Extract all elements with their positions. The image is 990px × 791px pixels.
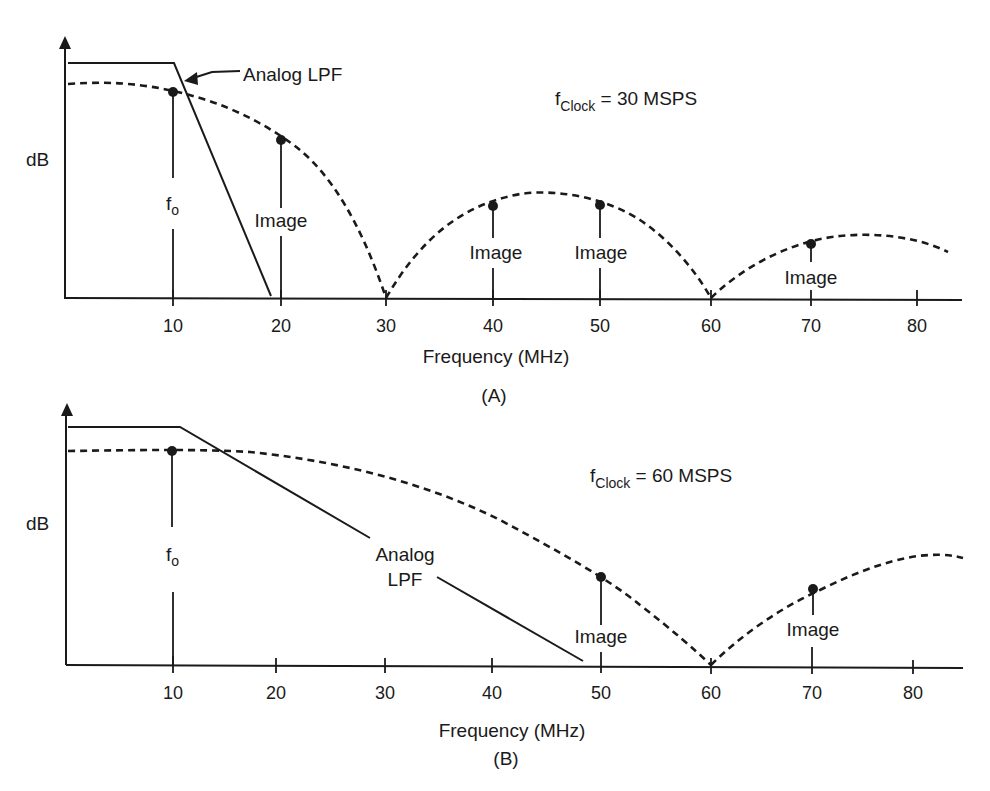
sinc-envelope-curve [68,83,948,298]
panel-caption: (A) [481,385,506,406]
marker-fo: fo [166,446,179,665]
y-axis-arrow-icon [61,403,73,416]
tick-label: 40 [482,683,502,703]
image-label: Image [575,626,628,647]
data-point [276,135,286,145]
tick-label: 60 [701,683,721,703]
marker-fo: fo [166,87,179,298]
data-point [488,201,498,211]
y-axis-title: dB [26,149,49,170]
lpf-leader-line [190,71,240,79]
tick-label: 20 [266,683,286,703]
clock-label: fClock = 60 MSPS [590,465,732,491]
marker-image-70: Image [787,584,840,640]
x-axis-title: Frequency (MHz) [439,720,586,741]
data-point [808,584,818,594]
clock-label: fClock = 30 MSPS [555,88,697,114]
tick-label: 30 [375,683,395,703]
tick-label: 50 [591,683,611,703]
image-label: Image [255,210,308,231]
x-axis [64,298,962,300]
data-point [595,200,605,210]
tick-label: 10 [163,316,183,336]
image-label: Image [787,619,840,640]
analog-lpf-curve [68,427,370,538]
y-axis-title: dB [26,513,49,534]
data-point [167,446,177,456]
tick-label: 10 [163,683,183,703]
tick-label: 40 [483,316,503,336]
figure: 10 20 30 40 50 60 70 80 Frequency (MHz) … [0,0,990,791]
tick-label: 50 [590,316,610,336]
panel-b: 10 20 30 40 50 60 70 80 Frequency (MHz) … [26,403,963,769]
panel-caption: (B) [493,748,518,769]
lpf-label-line1: Analog [375,544,434,565]
image-label: Image [575,242,628,263]
image-label: Image [785,267,838,288]
tick-label: 80 [903,683,923,703]
tick-label: 70 [801,316,821,336]
marker-image-50: Image [575,572,628,647]
data-point [596,572,606,582]
analog-lpf-curve-tail [437,577,583,661]
tick-label: 80 [907,316,927,336]
lpf-label: Analog LPF [243,64,342,85]
x-ticks [173,647,913,674]
fo-label: fo [166,193,179,218]
x-axis-title: Frequency (MHz) [423,346,570,367]
tick-label: 20 [271,316,291,336]
fo-label: fo [166,544,179,569]
x-axis [66,665,963,668]
image-label: Image [470,242,523,263]
analog-lpf-curve [68,63,271,296]
marker-image-40: Image [470,201,523,298]
tick-label: 70 [802,683,822,703]
arrow-icon [184,72,198,85]
y-axis-arrow-icon [59,36,71,49]
lpf-label-line2: LPF [388,569,423,590]
panel-a: 10 20 30 40 50 60 70 80 Frequency (MHz) … [26,36,962,406]
data-point [168,87,178,97]
data-point [806,239,816,249]
marker-image-50: Image [575,200,628,298]
tick-label: 60 [701,316,721,336]
tick-label: 30 [376,316,396,336]
